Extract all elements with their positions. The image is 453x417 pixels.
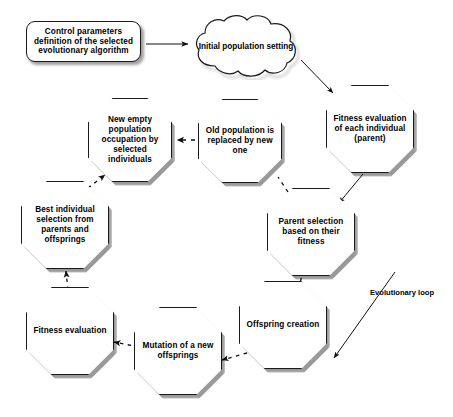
node-parent-selection[interactable]: Parent selection based on their fitness bbox=[267, 188, 355, 276]
node-old-population-replaced-label: Old population is replaced by new one bbox=[199, 126, 281, 156]
node-fitness-evaluation[interactable]: Fitness evaluation bbox=[26, 287, 114, 375]
node-best-individual-selection[interactable]: Best individual selection from parents a… bbox=[21, 181, 109, 269]
octagon-shape-icon: Mutation of a new offsprings bbox=[134, 307, 222, 395]
node-new-empty-population[interactable]: New empty population occupation by selec… bbox=[88, 98, 172, 182]
node-offspring-creation[interactable]: Offspring creation bbox=[239, 281, 327, 369]
node-best-individual-selection-label: Best individual selection from parents a… bbox=[22, 205, 108, 244]
evolutionary-loop-label: Evolutionary loop bbox=[370, 288, 434, 297]
node-offspring-creation-label: Offspring creation bbox=[240, 320, 326, 330]
node-fitness-evaluation-label: Fitness evaluation bbox=[27, 326, 113, 336]
edge-evolutionary-loop-arrow bbox=[334, 272, 395, 358]
node-initial-population-label: Initial population setting bbox=[192, 14, 300, 80]
octagon-shape-icon: New empty population occupation by selec… bbox=[88, 98, 172, 182]
octagon-shape-icon: Fitness evaluation bbox=[26, 287, 114, 375]
octagon-shape-icon: Parent selection based on their fitness bbox=[267, 188, 355, 276]
octagon-shape-icon: Offspring creation bbox=[239, 281, 327, 369]
node-parent-selection-label: Parent selection based on their fitness bbox=[268, 217, 354, 247]
node-initial-population[interactable]: Initial population setting bbox=[192, 14, 300, 80]
node-new-empty-population-label: New empty population occupation by selec… bbox=[89, 115, 171, 164]
octagon-shape-icon: Fitness evaluation of each individual (p… bbox=[326, 85, 414, 173]
node-control-parameters[interactable]: Control parameters definition of the sel… bbox=[26, 21, 141, 62]
node-mutation[interactable]: Mutation of a new offsprings bbox=[134, 307, 222, 395]
node-fitness-evaluation-parent[interactable]: Fitness evaluation of each individual (p… bbox=[326, 85, 414, 173]
flowchart-canvas: Control parameters definition of the sel… bbox=[0, 0, 453, 417]
node-old-population-replaced[interactable]: Old population is replaced by new one bbox=[198, 99, 282, 183]
octagon-shape-icon: Best individual selection from parents a… bbox=[21, 181, 109, 269]
octagon-shape-icon: Old population is replaced by new one bbox=[198, 99, 282, 183]
node-fitness-evaluation-parent-label: Fitness evaluation of each individual (p… bbox=[327, 114, 413, 144]
node-control-parameters-label: Control parameters definition of the sel… bbox=[27, 27, 140, 57]
node-mutation-label: Mutation of a new offsprings bbox=[135, 341, 221, 361]
